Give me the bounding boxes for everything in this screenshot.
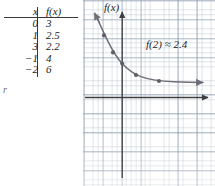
table-row: −1 4 xyxy=(4,53,78,64)
cell-x: 3 xyxy=(4,41,42,52)
curve-left-arrow xyxy=(95,13,100,23)
data-point xyxy=(134,73,138,77)
y-axis-label: f(x) xyxy=(104,1,119,13)
table-row: 1 2.5 xyxy=(4,30,78,41)
table-row: 0 3 xyxy=(4,18,78,30)
cell-fx: 6 xyxy=(42,64,78,75)
data-point xyxy=(111,50,115,54)
data-point xyxy=(120,62,124,66)
cell-fx: 2.2 xyxy=(42,41,78,52)
table-row: 3 2.2 xyxy=(4,41,78,52)
table-header-row: x f(x) xyxy=(4,6,78,17)
table-header-x: x xyxy=(4,6,42,17)
table-row: −2 6 xyxy=(4,64,78,75)
data-point xyxy=(102,33,106,37)
annotation-f2-approx: f(2) ≈ 2.4 xyxy=(146,38,187,50)
value-table: x f(x) 0 3 1 2.5 3 2.2 −1 4 −2 6 xyxy=(4,6,78,75)
table-header-fx: f(x) xyxy=(42,6,78,17)
stray-margin-mark: r xyxy=(3,84,7,95)
data-point xyxy=(157,79,161,83)
cell-x: −2 xyxy=(4,64,42,75)
